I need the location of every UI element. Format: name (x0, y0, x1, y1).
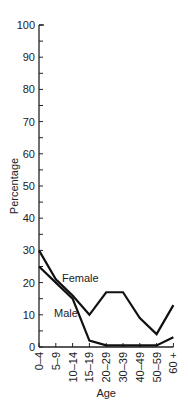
series-label-male: Male (54, 307, 78, 319)
series-line-female (39, 250, 173, 334)
x-tick-label: 20–29 (100, 352, 112, 383)
x-tick-label: 5–9 (50, 352, 62, 370)
x-tick-label: 50–59 (151, 352, 163, 383)
x-tick-label: 30–39 (117, 352, 129, 383)
x-axis-title: Age (96, 387, 116, 399)
y-tick-label: 100 (17, 19, 35, 31)
y-tick-label: 0 (29, 341, 35, 353)
y-axis-title: Percentage (8, 158, 20, 214)
y-tick-label: 50 (23, 180, 35, 192)
x-tick-label: 10–14 (67, 352, 79, 383)
y-tick-label: 10 (23, 309, 35, 321)
x-tick-label: 15–19 (83, 352, 95, 383)
y-tick-label: 70 (23, 116, 35, 128)
y-tick-label: 40 (23, 212, 35, 224)
x-tick-label: 40–49 (134, 352, 146, 383)
x-tick-label: 60 + (167, 352, 179, 374)
y-tick-label: 90 (23, 51, 35, 63)
series-label-female: Female (62, 272, 99, 284)
series-line-male (39, 267, 173, 346)
x-tick-label: 0–4 (33, 352, 45, 370)
y-tick-label: 30 (23, 244, 35, 256)
line-chart: 01020304050607080901000–45–910–1415–1920… (0, 0, 189, 411)
y-tick-label: 80 (23, 83, 35, 95)
y-tick-label: 60 (23, 148, 35, 160)
y-tick-label: 20 (23, 277, 35, 289)
